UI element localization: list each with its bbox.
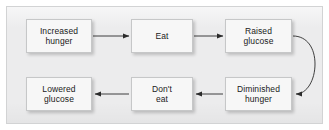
- flow-diagram-figure: Increased hunger Eat Raised glucose Lowe…: [0, 0, 329, 130]
- node-raised-glucose: Raised glucose: [225, 19, 292, 53]
- node-eat: Eat: [131, 19, 193, 53]
- edge-raised-glucose-to-diminished-hunger: [293, 36, 315, 94]
- node-dont-eat: Don't eat: [131, 77, 193, 111]
- node-lowered-glucose: Lowered glucose: [26, 77, 92, 111]
- node-increased-hunger: Increased hunger: [26, 19, 92, 53]
- node-diminished-hunger: Diminished hunger: [225, 77, 292, 111]
